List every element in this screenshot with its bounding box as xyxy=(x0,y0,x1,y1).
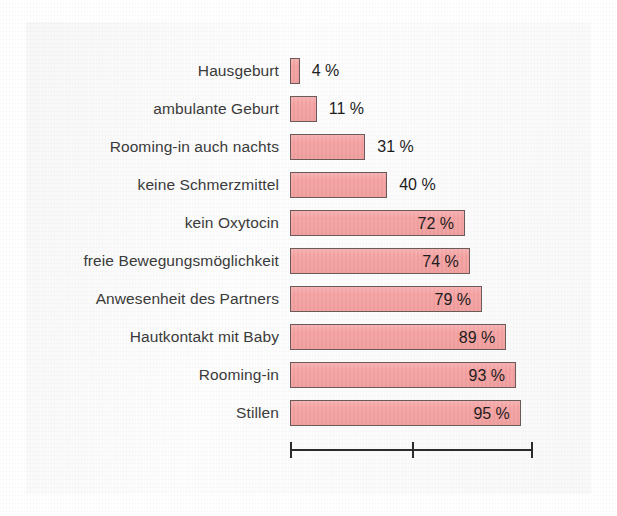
bar: 79 % xyxy=(290,286,482,312)
bar-print-texture xyxy=(291,59,299,83)
axis-tick xyxy=(290,442,292,458)
chart-figure: Hausgeburt4 %ambulante Geburt11 %Rooming… xyxy=(0,0,617,516)
bar-value-label: 40 % xyxy=(399,172,435,198)
bar-print-texture xyxy=(291,135,364,159)
category-label: ambulante Geburt xyxy=(153,96,290,122)
bar-row: Rooming-in auch nachts31 % xyxy=(0,134,617,160)
category-label: Hausgeburt xyxy=(198,58,290,84)
bar xyxy=(290,58,300,84)
bar-row: Stillen95 % xyxy=(0,400,617,426)
bar-row: Hautkontakt mit Baby89 % xyxy=(0,324,617,350)
bar: 95 % xyxy=(290,400,521,426)
category-label: keine Schmerzmittel xyxy=(138,172,290,198)
bar-print-texture xyxy=(291,97,316,121)
bar-row: keine Schmerzmittel40 % xyxy=(0,172,617,198)
bar-value-label: 11 % xyxy=(329,96,364,122)
category-label: Rooming-in auch nachts xyxy=(110,134,290,160)
bar-chart-plot-area: Hausgeburt4 %ambulante Geburt11 %Rooming… xyxy=(0,0,617,516)
bar-value-label: 31 % xyxy=(377,134,413,160)
bar-value-label: 95 % xyxy=(473,401,509,427)
bar-print-texture xyxy=(291,173,386,197)
bar xyxy=(290,96,317,122)
bar: 89 % xyxy=(290,324,506,350)
bar: 74 % xyxy=(290,248,470,274)
bar-row: kein Oxytocin72 % xyxy=(0,210,617,236)
bar-row: ambulante Geburt11 % xyxy=(0,96,617,122)
bar: 72 % xyxy=(290,210,465,236)
category-label: Hautkontakt mit Baby xyxy=(130,324,290,350)
bar-value-label: 79 % xyxy=(435,287,471,313)
category-label: kein Oxytocin xyxy=(185,210,290,236)
category-label: freie Bewegungsmöglichkeit xyxy=(83,248,290,274)
bar-row: Anwesenheit des Partners79 % xyxy=(0,286,617,312)
category-label: Rooming-in xyxy=(199,362,290,388)
bar-row: Rooming-in93 % xyxy=(0,362,617,388)
axis-tick xyxy=(412,442,414,458)
axis-tick xyxy=(531,442,533,458)
value-axis xyxy=(290,449,533,450)
bar xyxy=(290,134,365,160)
category-label: Stillen xyxy=(236,400,290,426)
bar-value-label: 72 % xyxy=(417,211,453,237)
bar-value-label: 89 % xyxy=(459,325,495,351)
bar-row: Hausgeburt4 % xyxy=(0,58,617,84)
category-label: Anwesenheit des Partners xyxy=(96,286,290,312)
bar-row: freie Bewegungsmöglichkeit74 % xyxy=(0,248,617,274)
bar-value-label: 4 % xyxy=(312,58,340,84)
bar xyxy=(290,172,387,198)
bar-value-label: 74 % xyxy=(422,249,458,275)
bar: 93 % xyxy=(290,362,516,388)
bar-value-label: 93 % xyxy=(469,363,505,389)
